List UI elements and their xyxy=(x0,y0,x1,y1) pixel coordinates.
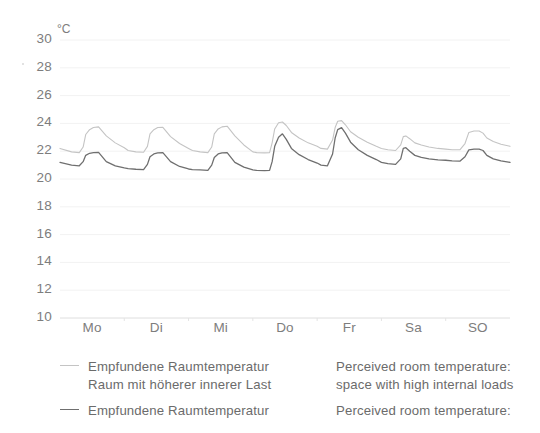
plot-canvas xyxy=(0,0,540,345)
x-tick-label-mo: Mo xyxy=(67,320,117,335)
y-tick-label: 18 xyxy=(22,198,52,213)
x-tick-label-do: Do xyxy=(260,320,310,335)
legend-label-de: Empfundene RaumtemperaturRaum mit höhere… xyxy=(88,358,328,393)
chart-page: °C 3028262422201816141210 MoDiMiDoFrSaSO… xyxy=(0,0,540,433)
x-tick-label-di: Di xyxy=(131,320,181,335)
y-tick-label: 24 xyxy=(22,114,52,129)
x-tick-label-mi: Mi xyxy=(196,320,246,335)
x-tick-label-sa: Sa xyxy=(389,320,439,335)
legend-label-en-line1: Perceived room temperature: xyxy=(336,358,540,376)
y-tick-label: 10 xyxy=(22,309,52,324)
y-tick-label: 28 xyxy=(22,59,52,74)
dark-line-swatch xyxy=(60,409,79,410)
temperature-line-chart: °C 3028262422201816141210 MoDiMiDoFrSaSO xyxy=(0,0,540,345)
x-tick-label-so: SO xyxy=(453,320,503,335)
y-tick-label: 26 xyxy=(22,87,52,102)
chart-legend: Empfundene RaumtemperaturRaum mit höhere… xyxy=(0,352,540,433)
y-tick-label: 30 xyxy=(22,31,52,46)
y-tick-label: 22 xyxy=(22,142,52,157)
y-tick-label: 12 xyxy=(22,281,52,296)
legend-label-en: Perceived room temperature: xyxy=(336,402,540,420)
legend-label-de-line1: Empfundene Raumtemperatur xyxy=(88,402,328,420)
legend-label-de-line1: Empfundene Raumtemperatur xyxy=(88,358,328,376)
light-line-swatch xyxy=(60,365,79,366)
y-tick-label: 16 xyxy=(22,226,52,241)
legend-label-en-line2: space with high internal loads xyxy=(336,376,540,394)
x-tick-label-fr: Fr xyxy=(324,320,374,335)
legend-label-en-line1: Perceived room temperature: xyxy=(336,402,540,420)
legend-label-de-line2: Raum mit höherer innerer Last xyxy=(88,376,328,394)
legend-label-de: Empfundene Raumtemperatur xyxy=(88,402,328,420)
y-tick-label: 14 xyxy=(22,253,52,268)
legend-label-en: Perceived room temperature:space with hi… xyxy=(336,358,540,393)
y-tick-label: 20 xyxy=(22,170,52,185)
